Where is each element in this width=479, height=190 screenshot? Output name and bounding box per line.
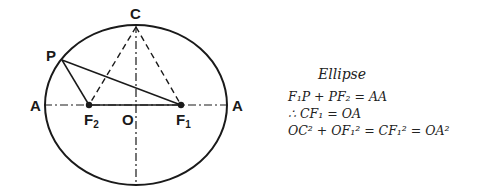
label-f1-text: F <box>176 111 185 128</box>
label-p: P <box>46 48 56 63</box>
line-c-f2 <box>89 27 136 105</box>
label-f2-text: F <box>84 111 93 128</box>
line-c-f1 <box>136 27 181 105</box>
equation-1: F₁P + PF₂ = AA <box>288 91 387 104</box>
ellipse-diagram <box>0 0 479 190</box>
label-c: C <box>130 6 141 21</box>
label-f1-sub: 1 <box>185 119 191 130</box>
label-a-right: A <box>232 98 243 113</box>
line-p-f1 <box>62 60 181 105</box>
equation-3: OC² + OF₁² = CF₁² = OA² <box>288 125 450 138</box>
focus-f1-dot <box>178 102 184 108</box>
line-p-f2 <box>62 60 89 105</box>
label-f2-sub: 2 <box>93 119 99 130</box>
label-a-left: A <box>30 98 41 113</box>
label-o: O <box>122 112 134 127</box>
label-f1: F1 <box>176 112 191 130</box>
equation-2: ∴ CF₁ = OA <box>288 108 361 121</box>
diagram-title: Ellipse <box>318 66 366 82</box>
focus-f2-dot <box>86 102 92 108</box>
label-f2: F2 <box>84 112 99 130</box>
